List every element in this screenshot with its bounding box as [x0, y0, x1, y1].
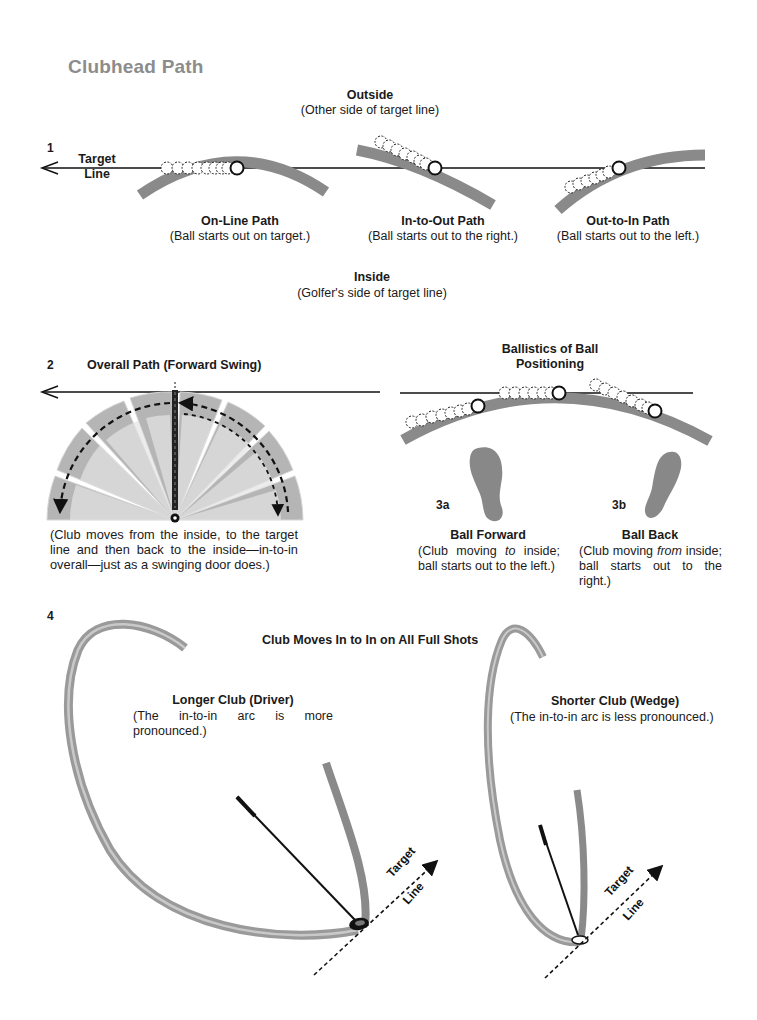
- figure2-title: Overall Path (Forward Swing): [87, 358, 261, 372]
- driver-swing-arc: [68, 624, 365, 935]
- wedge-target-label: Target: [602, 863, 636, 899]
- out-to-in-path-caption: (Ball starts out to the left.): [528, 229, 728, 243]
- in-to-out-path-caption: (Ball starts out to the right.): [343, 229, 543, 243]
- ball-forward-caption: (Club moving to inside; ball starts out …: [418, 544, 560, 574]
- wedge-swing-arc: [488, 629, 584, 943]
- figure3-title-line2: Positioning: [470, 357, 630, 371]
- driver-title: Longer Club (Driver): [133, 693, 333, 707]
- driver-target-label: Target: [384, 844, 418, 880]
- target-line-label-1: Target: [70, 152, 124, 166]
- on-line-path-caption: (Ball starts out on target.): [140, 229, 340, 243]
- page-title: Clubhead Path: [68, 56, 204, 78]
- on-line-path-diagram: [140, 162, 326, 196]
- left-footprint-icon: [470, 447, 503, 521]
- figure3a-number: 3a: [436, 498, 449, 512]
- ball-back-caption: (Club moving from inside; ball starts ou…: [579, 544, 722, 589]
- ball-positioning-diagram: [403, 379, 710, 441]
- figure1-number: 1: [47, 141, 54, 155]
- in-to-out-path-diagram: [357, 136, 493, 205]
- wedge-target-line-arrow: [545, 867, 661, 978]
- driver-target-line-arrow: [314, 862, 436, 975]
- driver-line-label: Line: [400, 879, 427, 907]
- figure2-caption: (Club moves from the inside, to the targ…: [50, 527, 298, 572]
- wedge-line-label: Line: [620, 895, 647, 923]
- outside-sublabel: (Other side of target line): [270, 103, 470, 117]
- figure3b-number: 3b: [612, 498, 626, 512]
- figure2-number: 2: [47, 358, 54, 372]
- right-footprint-icon: [645, 452, 681, 518]
- figure4-number: 4: [47, 609, 54, 623]
- wedge-title: Shorter Club (Wedge): [510, 694, 720, 708]
- out-to-in-path-title: Out-to-In Path: [528, 214, 728, 228]
- out-to-in-path-diagram: [558, 155, 705, 210]
- swinging-door-fan: [47, 382, 303, 523]
- figure4-title: Club Moves In to In on All Full Shots: [262, 633, 478, 647]
- inside-sublabel: (Golfer's side of target line): [262, 286, 482, 300]
- ball-back-title: Ball Back: [580, 528, 720, 542]
- wedge-caption: (The in-to-in arc is less pronounced.): [510, 710, 720, 725]
- inside-label: Inside: [272, 270, 472, 284]
- target-line-label-2: Line: [70, 167, 124, 181]
- driver-caption: (The in-to-in arc is more pronounced.): [133, 709, 333, 739]
- outside-label: Outside: [270, 88, 470, 102]
- in-to-out-path-title: In-to-Out Path: [343, 214, 543, 228]
- figure3-title-line1: Ballistics of Ball: [470, 342, 630, 356]
- driver-club: [237, 797, 370, 932]
- on-line-path-title: On-Line Path: [140, 214, 340, 228]
- ball-forward-title: Ball Forward: [418, 528, 558, 542]
